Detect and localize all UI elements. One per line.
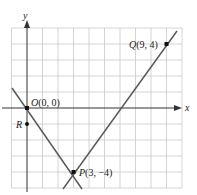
point-R: [25, 122, 29, 126]
x-axis-arrow-icon: [174, 105, 182, 111]
x-axis-label: x: [184, 102, 190, 113]
label-O: O(0, 0): [31, 97, 60, 109]
label-P: P(3, −4): [78, 167, 112, 179]
label-Q: Q(9, 4): [129, 39, 158, 51]
point-Q: [165, 42, 169, 46]
point-P: [72, 170, 76, 174]
y-axis-label: y: [22, 10, 28, 21]
point-O: [25, 106, 29, 110]
y-axis-arrow-icon: [24, 20, 30, 28]
coordinate-plane: x y O(0, 0) P(3, −4) Q(9, 4) R: [0, 0, 197, 195]
label-R: R: [15, 119, 22, 130]
